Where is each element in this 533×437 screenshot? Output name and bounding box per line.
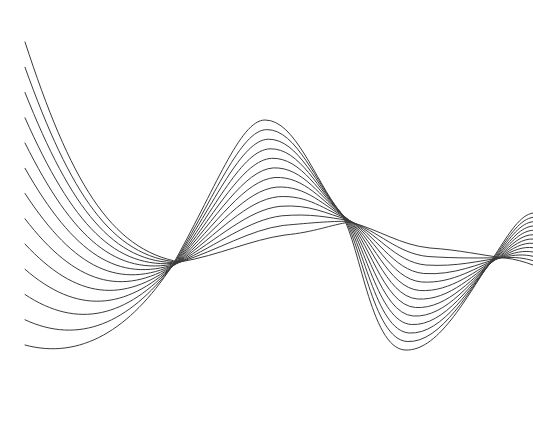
- wave-line: [25, 67, 533, 262]
- wave-line: [25, 93, 533, 266]
- wave-line: [25, 143, 533, 282]
- wave-line-artwork: [0, 0, 533, 437]
- wave-line: [25, 120, 533, 350]
- wave-line: [25, 149, 533, 325]
- wave-line: [25, 42, 533, 265]
